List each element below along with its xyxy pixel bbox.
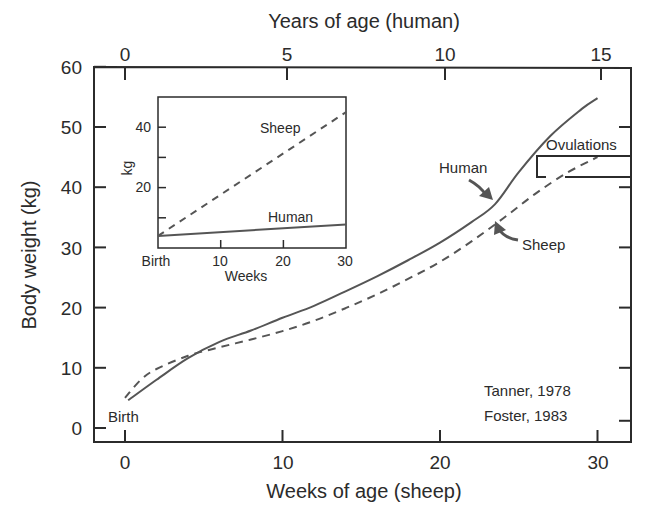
growth-chart: Years of age (human) Weeks of age (sheep… bbox=[0, 0, 653, 512]
x-tick-label: 30 bbox=[587, 452, 608, 473]
annotations bbox=[469, 156, 631, 240]
y-tick-label: 60 bbox=[61, 57, 82, 78]
x-axis-title: Weeks of age (sheep) bbox=[266, 480, 461, 502]
x-tick-label: 20 bbox=[429, 452, 450, 473]
y-tick-label: 20 bbox=[61, 298, 82, 319]
y-tick-label: 0 bbox=[71, 418, 82, 439]
inset-x-tick-label: 30 bbox=[337, 253, 353, 269]
inset-x-tick-label: 10 bbox=[212, 253, 228, 269]
human-label: Human bbox=[439, 159, 487, 176]
sheep-label: Sheep bbox=[522, 236, 565, 253]
ovulations-label: Ovulations bbox=[546, 136, 617, 153]
y-axis-title: Body weight (kg) bbox=[18, 181, 40, 330]
birth-label: Birth bbox=[108, 408, 139, 425]
inset-x-title: Weeks bbox=[225, 268, 268, 284]
inset-sheep-label: Sheep bbox=[260, 120, 301, 136]
x2-tick-label: 5 bbox=[282, 44, 293, 65]
x2-tick-label: 15 bbox=[590, 44, 611, 65]
source-foster: Foster, 1983 bbox=[484, 407, 567, 424]
x2-axis-title: Years of age (human) bbox=[268, 10, 460, 32]
y-tick-label: 30 bbox=[61, 238, 82, 259]
x-tick-label: 0 bbox=[120, 452, 131, 473]
y-tick-label: 50 bbox=[61, 117, 82, 138]
inset-x-tick-label: Birth bbox=[142, 253, 171, 269]
inset-y-title: kg bbox=[119, 161, 135, 176]
y-tick-label: 40 bbox=[61, 177, 82, 198]
source-tanner: Tanner, 1978 bbox=[484, 382, 571, 399]
inset-chart bbox=[158, 97, 346, 248]
y-tick-label: 10 bbox=[61, 358, 82, 379]
x2-tick-label: 10 bbox=[434, 44, 455, 65]
inset-y-tick-label: 20 bbox=[135, 179, 151, 195]
ovulations-bracket bbox=[537, 156, 631, 177]
inset-human-label: Human bbox=[268, 209, 313, 225]
x-tick-label: 10 bbox=[272, 452, 293, 473]
inset-y-tick-label: 40 bbox=[135, 119, 151, 135]
x2-tick-label: 0 bbox=[120, 44, 131, 65]
inset-x-tick-label: 20 bbox=[275, 253, 291, 269]
